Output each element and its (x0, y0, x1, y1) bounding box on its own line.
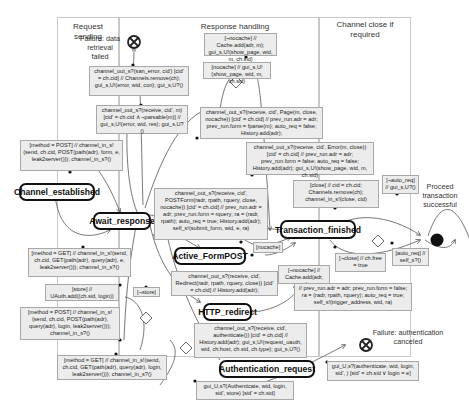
failure-auth-label: Failure: authentication canceled (358, 328, 458, 346)
state-await-response[interactable]: Await_response (93, 212, 151, 230)
transition-get-send-login: [method = GET] // channel_in_s!(send, ch… (57, 355, 167, 380)
state-transaction-finished[interactable]: Transaction_finished (280, 220, 356, 239)
transition-receive-formpost: channel_out_s?(receive, cid', POSTForm(r… (154, 188, 268, 240)
transition-gui-auth-cancel: gui_U,s?(authenticate, wid, login, sid',… (327, 361, 419, 381)
state-active-formpost[interactable]: Active_FormPOST (174, 247, 246, 265)
transition-receive-redirect: channel_out_s?(receive, cid', Redirect(r… (171, 271, 278, 296)
transition-not-store: [¬store] (133, 287, 160, 297)
transition-nocache-show: [nocache] // gui_s,U!(show_page, wid, m,… (203, 62, 271, 79)
transition-get-send-top: [method = GET] // channel_in_s!(send, ch… (28, 248, 131, 277)
transition-not-nocache-cache: [¬nocache] // Cache.add(adr, m); gui_s,U… (204, 33, 277, 56)
transition-not-close: [¬close] // ch.free = true (335, 253, 386, 272)
transition-close-remove: [close] // cid = ch.cid; Channels.remove… (293, 180, 379, 208)
transition-gui-authenticate: gui_U,s?(Authenticate, wid, login, sid',… (196, 381, 294, 400)
transition-parsable-error: channel_out_s?(receive, cid', m) [cid' =… (96, 105, 188, 134)
state-channel-established[interactable]: Channel_established (19, 183, 95, 201)
transition-post-send-login: [method = POST] // channel_in_s!(send, c… (20, 307, 120, 340)
transition-receive-error: channel_out_s?(receive, cid', Error(m, c… (246, 142, 374, 175)
transition-not-nocache-add: [¬nocache] // Cache.add(adr, m) (278, 265, 330, 284)
proceed-label: Proceed transaction successful (412, 182, 468, 209)
transition-nocache-label: [nocache] (253, 242, 283, 253)
transition-prev-run-redirect: // prev_run.adr = adr; prev_run.form = f… (294, 283, 412, 311)
transition-post-send-top: [method = POST] // channel_in_s!(send, c… (20, 140, 123, 171)
transition-san-error: channel_out_s?(san_error, cid') [cid' = … (89, 66, 189, 96)
failure-data-label: Failure: data retrieval failed (78, 34, 122, 61)
transition-store: [store] // UAuth.add((ch.sid, login)) (45, 284, 119, 301)
transition-not-auto-req: [¬auto_req] // gui_s,U?() (382, 175, 419, 194)
transition-auto-req: [auto_req] // self_s?() (392, 248, 429, 266)
transition-receive-authenticate: channel_out_s?(receive, cid', authentica… (194, 323, 307, 358)
transition-receive-page: channel_out_s?(receive, cid', Page(m, cl… (200, 107, 323, 139)
state-http-redirect[interactable]: HTTP_redirect (203, 303, 252, 321)
state-authentication-request[interactable]: Authentication_request (219, 360, 315, 378)
